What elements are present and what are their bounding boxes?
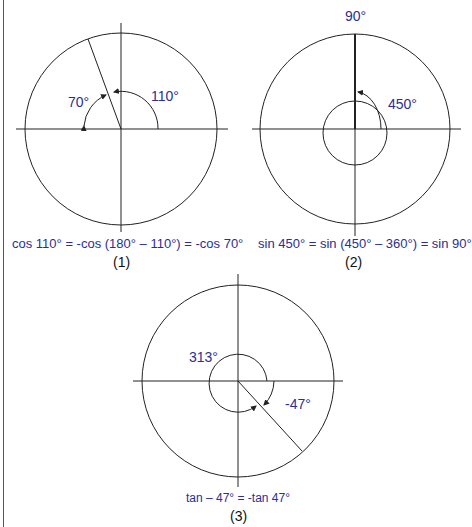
terminal-ray [88,39,121,129]
arc-450 [358,92,381,129]
angle-label-450: 450° [388,96,417,112]
angle-label-313: 313° [189,349,218,365]
terminal-ray [238,381,302,451]
equation-3: tan – 47° = -tan 47° [186,491,290,505]
diagram-3 [133,274,343,487]
diagram-2 [252,34,461,236]
angle-label-110: 110° [151,88,179,104]
equation-1: cos 110° = -cos (180° – 110°) = -cos 70° [12,236,243,251]
arc-neg47 [264,381,274,405]
caption-1: (1) [113,254,130,270]
angle-label-neg47: -47° [285,396,311,412]
angle-label-70: 70° [68,94,89,110]
angle-label-90: 90° [345,8,366,24]
equation-2: sin 450° = sin (450° – 360°) = sin 90° [258,236,472,251]
caption-3: (3) [230,508,247,524]
diagram-1 [16,23,228,232]
caption-2: (2) [345,254,362,270]
